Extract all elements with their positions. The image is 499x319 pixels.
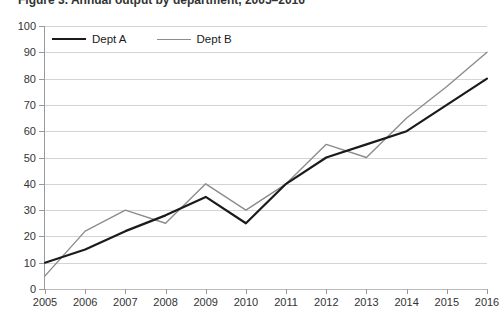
plot-area: [45, 26, 487, 289]
y-axis-tick-label: 0: [30, 283, 36, 295]
y-axis-tick-label: 40: [24, 178, 36, 190]
x-axis-tick-mark: [125, 289, 126, 294]
x-axis-tick-mark: [85, 289, 86, 294]
legend-line-swatch-icon: [157, 39, 191, 40]
y-axis-tick-label: 60: [24, 125, 36, 137]
y-axis-tick-label: 10: [24, 257, 36, 269]
legend-entry-dept-a: Dept A: [52, 33, 127, 45]
y-axis-tick-mark: [39, 184, 44, 185]
x-axis-tick-label: 2015: [435, 296, 459, 308]
x-axis-tick-mark: [366, 289, 367, 294]
x-axis-tick-mark: [206, 289, 207, 294]
legend-label-dept-b: Dept B: [197, 33, 232, 45]
series-line-dept-b: [45, 52, 487, 276]
y-axis-tick-label: 30: [24, 204, 36, 216]
x-axis-tick-label: 2010: [234, 296, 258, 308]
x-axis-tick-label: 2005: [33, 296, 57, 308]
y-axis-tick-mark: [39, 263, 44, 264]
x-axis-tick-mark: [45, 289, 46, 294]
x-axis-tick-label: 2007: [113, 296, 137, 308]
x-axis-tick-label: 2006: [73, 296, 97, 308]
x-axis-tick-mark: [246, 289, 247, 294]
x-axis-tick-mark: [166, 289, 167, 294]
y-axis-tick-mark: [39, 158, 44, 159]
series-layer: [45, 26, 487, 289]
x-axis-tick-label: 2009: [193, 296, 217, 308]
x-axis-tick-mark: [407, 289, 408, 294]
legend-line-swatch-icon: [52, 38, 86, 40]
y-axis-tick-label: 100: [18, 20, 36, 32]
y-axis-labels: 0102030405060708090100: [0, 0, 36, 319]
x-axis-tick-mark: [487, 289, 488, 294]
legend-label-dept-a: Dept A: [92, 33, 127, 45]
chart-title-strip: Figure 3. Annual output by department, 2…: [0, 0, 493, 11]
x-axis-tick-label: 2016: [475, 296, 499, 308]
y-axis-tick-mark: [39, 26, 44, 27]
y-axis-tick-mark: [39, 79, 44, 80]
y-axis-tick-mark: [39, 289, 44, 290]
x-axis-tick-label: 2011: [274, 296, 298, 308]
y-axis-tick-label: 80: [24, 73, 36, 85]
x-axis-tick-label: 2014: [394, 296, 418, 308]
x-axis-tick-label: 2012: [314, 296, 338, 308]
x-axis-tick-label: 2013: [354, 296, 378, 308]
y-axis-tick-label: 50: [24, 152, 36, 164]
x-axis-tick-label: 2008: [153, 296, 177, 308]
gridline: [45, 289, 487, 290]
y-axis-tick-mark: [39, 236, 44, 237]
chart-legend: Dept A Dept B: [52, 33, 232, 45]
y-axis-tick-mark: [39, 131, 44, 132]
legend-entry-dept-b: Dept B: [157, 33, 232, 45]
y-axis-tick-label: 90: [24, 46, 36, 58]
y-axis-tick-mark: [39, 52, 44, 53]
x-axis-tick-mark: [447, 289, 448, 294]
y-axis-tick-label: 20: [24, 230, 36, 242]
x-axis-tick-mark: [286, 289, 287, 294]
x-axis-tick-mark: [326, 289, 327, 294]
y-axis-tick-label: 70: [24, 99, 36, 111]
y-axis-tick-mark: [39, 105, 44, 106]
page-title: Figure 3. Annual output by department, 2…: [18, 0, 305, 7]
y-axis-tick-mark: [39, 210, 44, 211]
